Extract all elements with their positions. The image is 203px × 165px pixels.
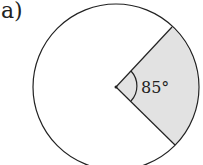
center-point [115,86,118,89]
circle-diagram: 85° [0,0,203,165]
angle-label: 85° [141,78,169,97]
